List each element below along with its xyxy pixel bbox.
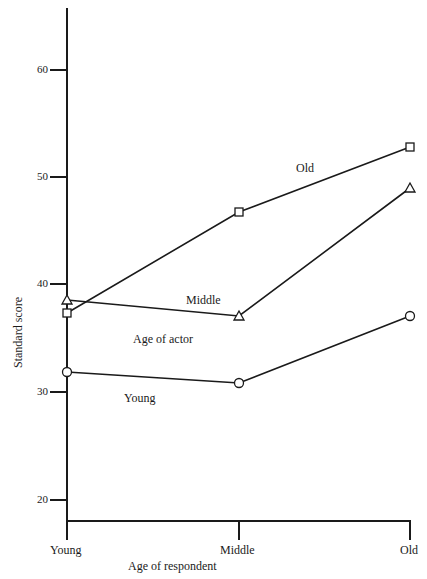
x-tick-label-middle: Middle [220, 544, 255, 556]
series-middle-line [67, 188, 410, 316]
y-tick-label-40: 40 [24, 278, 48, 289]
triangle-marker [62, 295, 72, 304]
y-axis-title: Standard score [11, 283, 26, 383]
series-label-middle: Middle [186, 294, 221, 306]
y-tick-label-60: 60 [24, 64, 48, 75]
circle-marker [63, 368, 72, 377]
legend-title: Age of actor [133, 333, 193, 345]
square-marker [406, 143, 414, 151]
square-marker [235, 208, 243, 216]
square-marker [63, 309, 71, 317]
x-tick-label-young: Young [50, 544, 81, 556]
line-chart [0, 0, 427, 579]
series-label-old: Old [296, 162, 314, 174]
x-axis-title: Age of respondent [128, 560, 217, 572]
triangle-marker [405, 183, 415, 192]
series-old-line [67, 147, 410, 313]
y-tick-label-30: 30 [24, 386, 48, 397]
y-tick-label-50: 50 [24, 171, 48, 182]
y-tick-label-20: 20 [24, 494, 48, 505]
x-tick-label-old: Old [400, 544, 418, 556]
series-label-young: Young [124, 392, 155, 404]
series-young-line [67, 316, 410, 383]
circle-marker [235, 379, 244, 388]
circle-marker [406, 312, 415, 321]
